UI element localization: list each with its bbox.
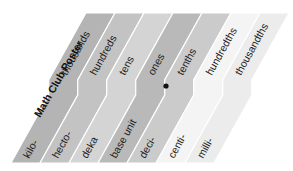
decimal-point bbox=[163, 83, 168, 88]
place-value-poster: thousandskilo-hundredshecto-tensdekaones… bbox=[0, 0, 293, 171]
